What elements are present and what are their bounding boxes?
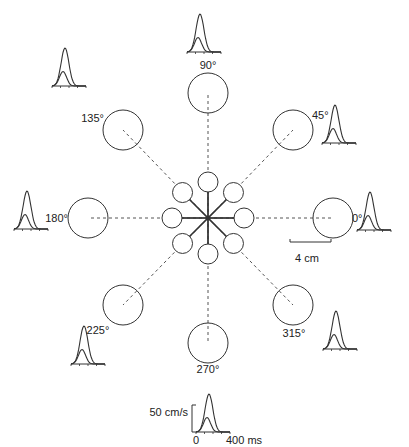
velocity-profile-45-secondary-velocity-curve: [322, 129, 356, 143]
velocity-profile-180-peak-velocity-curve: [14, 191, 48, 229]
small-target-circle-135: [173, 183, 193, 203]
angle-label-90: 90°: [200, 59, 217, 71]
velocity-profile-270-secondary-velocity-curve: [196, 418, 230, 432]
velocity-profile-135-peak-velocity-curve: [52, 48, 86, 86]
angle-label-45: 45°: [312, 109, 329, 121]
angle-label-0: 0°: [352, 212, 363, 224]
scale-bar-text: 4 cm: [295, 252, 319, 264]
small-target-circle-0: [234, 208, 254, 228]
angle-label-225: 225°: [87, 324, 110, 336]
velocity-axis-label: 50 cm/s: [149, 406, 188, 418]
velocity-profile-315-secondary-velocity-curve: [323, 335, 357, 349]
velocity-profile-135-secondary-velocity-curve: [52, 72, 86, 86]
velocity-profile-180-secondary-velocity-curve: [14, 215, 48, 229]
angle-label-270: 270°: [197, 363, 220, 375]
velocity-profile-225-secondary-velocity-curve: [71, 350, 105, 364]
small-target-circle-225: [173, 233, 193, 253]
spoke-45: [208, 200, 226, 218]
center-out-reaching-diagram: 0°45°90°135°180°225°270°315°4 cm50 cm/s0…: [0, 0, 409, 447]
diagram-canvas: 0°45°90°135°180°225°270°315°4 cm50 cm/s0…: [0, 0, 409, 447]
small-target-circle-180: [162, 208, 182, 228]
small-target-circle-90: [198, 172, 218, 192]
spoke-135: [190, 200, 208, 218]
spoke-225: [190, 218, 208, 236]
small-target-circle-45: [223, 183, 243, 203]
angle-label-135: 135°: [81, 112, 104, 124]
center-point: [206, 216, 210, 220]
angle-label-315: 315°: [283, 327, 306, 339]
velocity-profile-90-secondary-velocity-curve: [187, 38, 221, 52]
small-target-circle-315: [223, 233, 243, 253]
angle-label-180: 180°: [45, 212, 68, 224]
small-target-circle-270: [198, 244, 218, 264]
time-axis-end: 400 ms: [226, 434, 263, 446]
velocity-profile-90-peak-velocity-curve: [187, 14, 221, 52]
velocity-profile-270-peak-velocity-curve: [196, 394, 230, 432]
time-axis-start: 0: [193, 434, 199, 446]
spoke-315: [208, 218, 226, 236]
velocity-profile-315-peak-velocity-curve: [323, 311, 357, 349]
velocity-scale-bracket: [192, 405, 196, 432]
